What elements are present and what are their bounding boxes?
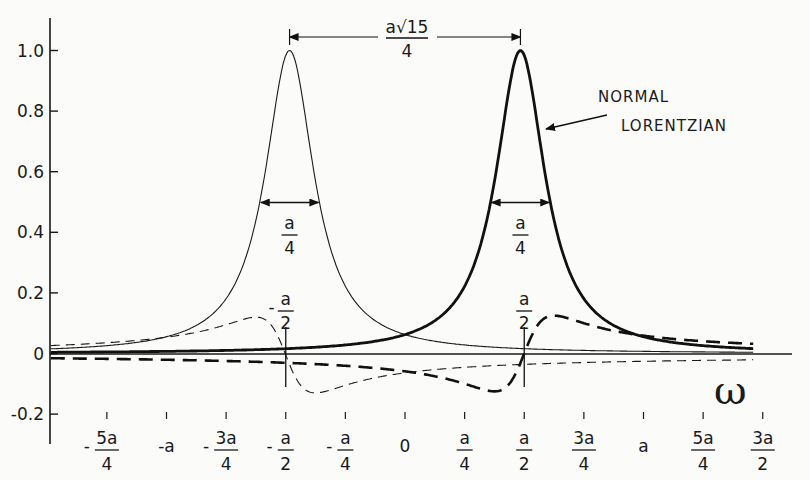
x-tick-label: a xyxy=(638,436,648,456)
x-tick-denominator: 4 xyxy=(578,454,589,474)
x-tick-label: -a xyxy=(158,436,175,456)
x-tick: -a xyxy=(158,412,175,456)
y-tick-label: 0.2 xyxy=(17,283,44,303)
fwhm-numerator: a xyxy=(515,213,525,233)
annotation-fwhm-left: a4 xyxy=(261,203,319,259)
normal-label: NORMAL xyxy=(598,88,669,106)
svg-text:-: - xyxy=(326,436,332,456)
x-tick: a2 xyxy=(516,412,532,474)
x-tick-numerator: a xyxy=(459,428,469,448)
omega-axis-label: ω xyxy=(714,367,747,413)
x-tick-numerator: a xyxy=(519,428,529,448)
x-tick-denominator: 4 xyxy=(101,454,112,474)
x-tick-denominator: 2 xyxy=(519,454,530,474)
x-tick: 3a2 xyxy=(751,412,775,474)
dispersion-left-thin-dashed-curve xyxy=(51,317,753,393)
x-tick: a xyxy=(638,412,648,456)
marker-numerator: a xyxy=(519,289,529,309)
svg-text:-: - xyxy=(203,436,209,456)
x-ticks: 5a4--a3a4-a2-a4-0a4a23a4a5a43a2 xyxy=(84,412,775,474)
fwhm-denominator: 4 xyxy=(515,238,526,258)
separation-numerator: a√15 xyxy=(386,17,429,37)
x-tick: 5a4- xyxy=(84,412,119,474)
y-tick-label: 0 xyxy=(33,344,44,364)
x-tick: a4 xyxy=(457,412,473,474)
x-tick: 3a4- xyxy=(203,412,238,474)
y-tick-label: 0.6 xyxy=(17,162,44,182)
x-tick-denominator: 2 xyxy=(757,454,768,474)
separation-denominator: 4 xyxy=(402,41,413,61)
x-tick-denominator: 4 xyxy=(698,454,709,474)
x-tick: a4- xyxy=(326,412,353,474)
x-tick-numerator: 3a xyxy=(752,428,773,448)
fwhm-numerator: a xyxy=(284,213,294,233)
y-axis: 1.00.80.60.40.20-0.2 xyxy=(11,18,58,444)
annotation-label-arrow: NORMALLORENTZIAN xyxy=(546,88,727,135)
x-tick-denominator: 4 xyxy=(340,454,351,474)
x-tick-numerator: 3a xyxy=(573,428,594,448)
y-tick-label: 1.0 xyxy=(17,41,44,61)
y-tick-label: 0.4 xyxy=(17,222,44,242)
x-tick-numerator: 3a xyxy=(216,428,237,448)
x-tick-numerator: a xyxy=(281,428,291,448)
y-tick-label: 0.8 xyxy=(17,101,44,121)
marker-numerator: a xyxy=(281,289,291,309)
x-tick: 5a4 xyxy=(691,412,715,474)
x-tick: a2- xyxy=(267,412,294,474)
x-tick-denominator: 2 xyxy=(280,454,291,474)
x-tick: 0 xyxy=(400,412,411,456)
svg-text:-: - xyxy=(269,297,275,317)
x-tick-denominator: 4 xyxy=(221,454,232,474)
fwhm-denominator: 4 xyxy=(284,238,295,258)
x-tick-numerator: 5a xyxy=(693,428,714,448)
y-tick-label: -0.2 xyxy=(11,404,44,424)
annotation-fwhm-right: a4 xyxy=(492,203,550,259)
x-tick-numerator: 5a xyxy=(96,428,117,448)
marker-denominator: 2 xyxy=(280,313,291,333)
x-tick-numerator: a xyxy=(340,428,350,448)
x-tick-label: 0 xyxy=(400,436,411,456)
x-tick-denominator: 4 xyxy=(459,454,470,474)
marker-denominator: 2 xyxy=(519,313,530,333)
annotations: a√154a4a4a2-a2NORMALLORENTZIAN xyxy=(261,17,727,387)
annotation-peak-separation: a√154 xyxy=(290,17,521,61)
y-ticks: 1.00.80.60.40.20-0.2 xyxy=(11,41,58,425)
lorentzian-chart: 1.00.80.60.40.20-0.2 5a4--a3a4-a2-a4-0a4… xyxy=(0,0,810,480)
svg-text:-: - xyxy=(84,436,90,456)
x-tick: 3a4 xyxy=(572,412,596,474)
svg-text:-: - xyxy=(267,436,273,456)
annotation-marker-left: a2- xyxy=(269,289,294,387)
lorentzian-label: LORENTZIAN xyxy=(621,117,727,135)
